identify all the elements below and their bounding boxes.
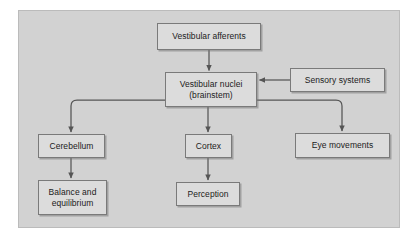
node-vestibular-afferents[interactable]: Vestibular afferents — [157, 23, 261, 50]
node-balance-equilibrium[interactable]: Balance and equilibrium — [38, 180, 107, 215]
node-cortex[interactable]: Cortex — [185, 134, 232, 158]
connector-nuclei-to-cerebellum — [71, 100, 165, 132]
node-vestibular-nuclei[interactable]: Vestibular nuclei (brainstem) — [165, 72, 257, 107]
node-sensory-systems[interactable]: Sensory systems — [290, 68, 385, 92]
connector-nuclei-to-eye — [257, 100, 342, 131]
node-eye-movements[interactable]: Eye movements — [295, 133, 390, 158]
node-perception[interactable]: Perception — [176, 182, 240, 206]
node-cerebellum[interactable]: Cerebellum — [38, 134, 105, 158]
figure-root: Vestibular afferents Vestibular nuclei (… — [0, 0, 413, 243]
